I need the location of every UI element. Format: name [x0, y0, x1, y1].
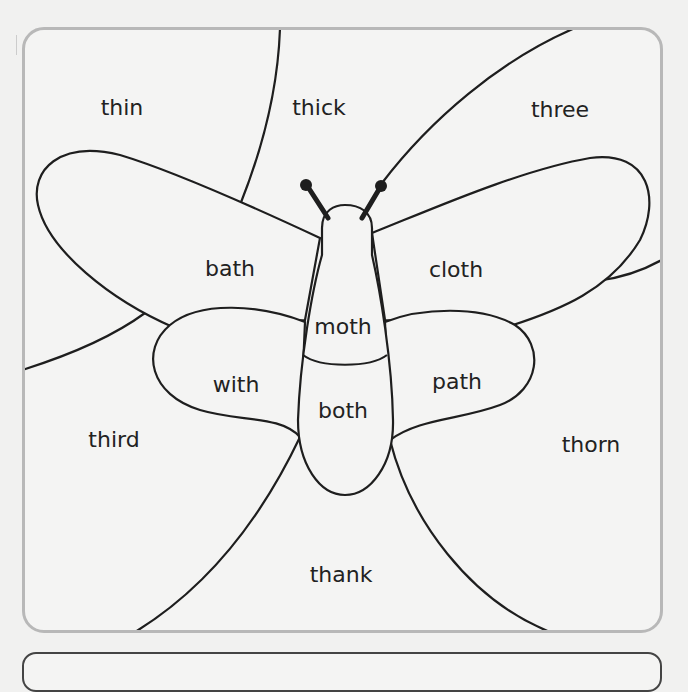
region-three[interactable]: three — [531, 97, 589, 122]
region-third[interactable]: third — [88, 427, 139, 452]
region-thin[interactable]: thin — [101, 95, 144, 120]
antenna-left — [308, 187, 328, 218]
antenna-tip-right-icon — [375, 180, 387, 192]
region-path[interactable]: path — [432, 369, 482, 394]
region-thick[interactable]: thick — [292, 95, 346, 120]
wing-bath — [37, 151, 320, 328]
divider-thin-thick — [240, 28, 280, 205]
region-thank[interactable]: thank — [310, 562, 373, 587]
region-with[interactable]: with — [213, 372, 260, 397]
divider-thorn-thank — [390, 440, 550, 632]
region-cloth[interactable]: cloth — [429, 257, 483, 282]
instruction-box — [22, 652, 662, 692]
wing-cloth — [372, 157, 649, 326]
region-both[interactable]: both — [318, 398, 368, 423]
divider-thin-third — [22, 313, 145, 370]
region-thorn[interactable]: thorn — [562, 432, 621, 457]
region-bath[interactable]: bath — [205, 256, 255, 281]
region-moth[interactable]: moth — [314, 314, 371, 339]
divider-third-thank — [135, 437, 300, 632]
antenna-tip-left-icon — [300, 179, 312, 191]
